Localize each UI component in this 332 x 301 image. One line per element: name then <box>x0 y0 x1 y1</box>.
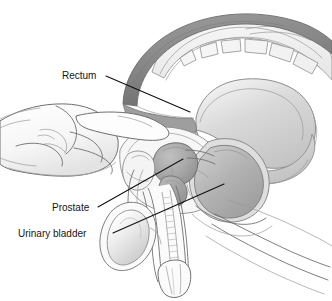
illustration-figure: Rectum Prostate Urinary bladder <box>0 0 332 301</box>
anatomy-illustration-svg: Rectum Prostate Urinary bladder <box>0 0 332 301</box>
glans-penis <box>158 260 191 297</box>
label-prostate: Prostate <box>52 202 90 213</box>
label-urinary-bladder: Urinary bladder <box>18 228 87 239</box>
label-rectum: Rectum <box>62 70 96 81</box>
